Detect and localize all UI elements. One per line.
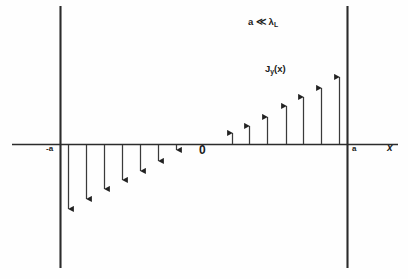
lambda-subscript: L — [274, 21, 278, 28]
current-argument: (x) — [274, 63, 286, 74]
condition-annotation: a ≪ λL — [248, 17, 278, 29]
slab-boundaries — [61, 6, 348, 268]
positive-current-arrows — [233, 77, 340, 144]
axis-tick-label-minus-a: -a — [46, 145, 53, 153]
current-density-annotation: Jy(x) — [265, 64, 286, 76]
condition-operator: ≪ — [256, 16, 266, 27]
negative-current-arrows — [69, 145, 177, 209]
condition-lhs: a — [248, 16, 253, 27]
x-axis-label: x — [387, 143, 393, 153]
current-density-stem-plot — [0, 0, 408, 279]
figure-canvas: -a 0 a x a ≪ λL Jy(x) — [0, 0, 408, 279]
axis-origin-label: 0 — [199, 144, 206, 156]
axis-tick-label-a: a — [352, 145, 356, 153]
